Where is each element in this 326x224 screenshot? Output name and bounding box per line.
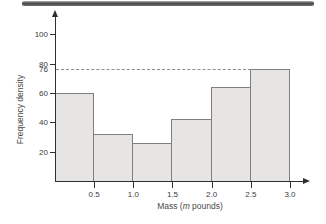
x-tick-label-2.0: 2.0 [200, 190, 224, 199]
x-axis-line [55, 181, 305, 182]
histogram-bar-1.5-2.0 [171, 119, 211, 182]
x-axis-title: Mass (m pounds) [110, 201, 270, 211]
x-tick-3.0 [290, 181, 291, 188]
histogram-bar-1.0-1.5 [132, 143, 172, 182]
y-axis-title: Frequency density [15, 50, 26, 170]
y-tick-label-60: 60 [30, 89, 48, 98]
y-tick-label-40: 40 [30, 118, 48, 127]
figure-canvas: 204060801000.51.01.52.02.53.0 76 Frequen… [0, 0, 326, 224]
x-tick-0.5 [94, 181, 95, 188]
x-tick-1.5 [172, 181, 173, 188]
x-tick-label-1.0: 1.0 [121, 190, 145, 199]
y-tick-60 [50, 93, 55, 94]
y-tick-label-100: 100 [30, 30, 48, 39]
x-tick-label-1.5: 1.5 [160, 190, 184, 199]
y-axis-arrow-icon [52, 10, 58, 17]
x-tick-2.0 [212, 181, 213, 188]
x-tick-label-0.5: 0.5 [82, 190, 106, 199]
x-tick-2.5 [251, 181, 252, 188]
x-tick-label-3.0: 3.0 [278, 190, 302, 199]
y-tick-20 [50, 152, 55, 153]
y-tick-100 [50, 34, 55, 35]
histogram-bar-2.5-3.0 [250, 69, 290, 182]
y-axis-title-text: Frequency density [15, 75, 25, 144]
x-axis-arrow-icon [303, 178, 310, 184]
y-axis-line [55, 16, 56, 181]
x-tick-label-2.5: 2.5 [239, 190, 263, 199]
dashed-guide-line [56, 69, 251, 70]
y-tick-40 [50, 122, 55, 123]
x-axis-title-variable: m [183, 201, 190, 211]
histogram-bar-2.0-2.5 [211, 87, 251, 182]
y-tick-80 [50, 64, 55, 65]
histogram-bar-0.5-1.0 [93, 134, 133, 182]
x-axis-title-post: pounds) [190, 201, 223, 211]
histogram-plot: 204060801000.51.01.52.02.53.0 76 Frequen… [0, 0, 326, 224]
x-axis-title-pre: Mass ( [157, 201, 183, 211]
x-tick-1.0 [133, 181, 134, 188]
histogram-bar-0-0.5 [55, 93, 94, 182]
y-tick-label-20: 20 [30, 148, 48, 157]
dashed-line-value-label: 76 [30, 65, 48, 74]
